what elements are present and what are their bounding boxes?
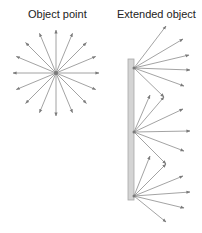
ray-arrow (26, 43, 56, 73)
ray-arrow (134, 132, 166, 164)
ray-arrow (134, 164, 166, 196)
ray-arrow (56, 73, 86, 103)
ray-arrow (134, 95, 150, 132)
optics-diagram (0, 0, 202, 233)
object-point-dot (54, 71, 58, 75)
ray-arrow (26, 73, 56, 103)
emission-point (133, 195, 136, 198)
ray-arrow (134, 156, 150, 196)
object-point-rays (13, 30, 99, 116)
ray-arrow (134, 68, 164, 97)
extended-object-rays (133, 26, 191, 222)
extended-object-bar (128, 59, 134, 200)
ray-arrow (56, 43, 86, 73)
ray-arrow (134, 131, 190, 132)
ray-arrow (134, 68, 184, 86)
ray-arrow (134, 132, 184, 151)
ray-arrow (134, 68, 190, 70)
extended-object-rect (128, 59, 134, 200)
emission-point (133, 131, 136, 134)
ray-arrow (134, 97, 164, 132)
emission-point (133, 67, 136, 70)
ray-arrow (134, 39, 183, 68)
ray-arrow (134, 109, 183, 132)
